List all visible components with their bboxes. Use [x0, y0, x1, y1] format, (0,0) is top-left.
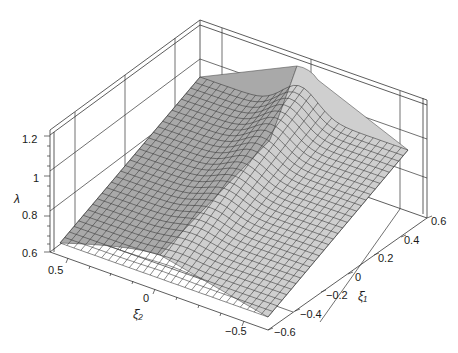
plot-canvas: 1.2 1 0.8 0.6 λ 0.5 0 −0.5 ξ̄₂ 0.6 0.4 0	[0, 0, 458, 353]
y-tick-0-6: 0.6	[431, 215, 446, 227]
y-tick-0-2: 0.2	[378, 252, 393, 264]
z-tick-1-2: 1.2	[22, 133, 37, 145]
surface-plot: 1.2 1 0.8 0.6 λ 0.5 0 −0.5 ξ̄₂ 0.6 0.4 0	[0, 0, 458, 353]
z-axis-label: λ	[13, 192, 20, 206]
x-tick-0: 0	[143, 292, 149, 304]
x-tick-neg-0-5: −0.5	[225, 325, 247, 337]
y-tick-0: 0	[355, 271, 361, 283]
y-tick-neg-0-2: −0.2	[326, 289, 348, 301]
z-tick-1: 1	[33, 172, 39, 184]
y-tick-neg-0-6: −0.6	[274, 326, 296, 338]
y-axis-label: ξ̄₁	[358, 289, 367, 303]
x-tick-0-5: 0.5	[48, 264, 63, 276]
y-tick-0-4: 0.4	[404, 234, 419, 246]
z-axis-ticks	[44, 136, 50, 252]
x-axis-label: ξ̄₂	[133, 307, 143, 321]
z-tick-0-6: 0.6	[22, 247, 37, 259]
y-tick-neg-0-4: −0.4	[300, 308, 322, 320]
z-tick-0-8: 0.8	[22, 209, 37, 221]
